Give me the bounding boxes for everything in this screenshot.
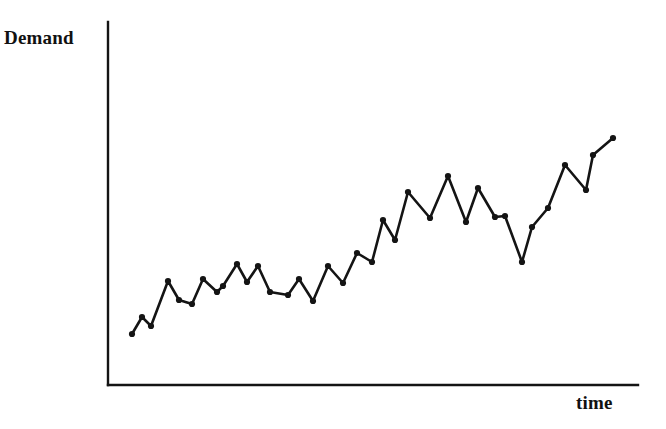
data-point <box>519 259 525 265</box>
data-point <box>148 323 154 329</box>
data-point <box>296 276 302 282</box>
axes-group <box>108 22 638 385</box>
data-point <box>139 314 145 320</box>
data-point <box>340 280 346 286</box>
data-point <box>244 279 250 285</box>
data-point <box>427 215 433 221</box>
data-point <box>392 237 398 243</box>
data-point <box>176 297 182 303</box>
chart-figure: Demand time <box>0 0 666 429</box>
x-axis-label: time <box>576 392 613 414</box>
data-point <box>255 263 261 269</box>
data-point <box>267 289 273 295</box>
data-point <box>445 173 451 179</box>
data-point <box>545 205 551 211</box>
y-axis-label: Demand <box>4 27 74 49</box>
demand-time-line-chart <box>0 0 666 429</box>
data-point <box>583 187 589 193</box>
data-point <box>189 301 195 307</box>
data-point <box>463 219 469 225</box>
data-point <box>165 278 171 284</box>
data-point <box>310 298 316 304</box>
data-point <box>285 292 291 298</box>
data-point <box>610 135 616 141</box>
data-point <box>354 250 360 256</box>
demand-series-markers <box>129 135 616 337</box>
data-point <box>220 283 226 289</box>
data-point <box>405 189 411 195</box>
data-point <box>492 214 498 220</box>
data-point <box>129 331 135 337</box>
data-point <box>369 259 375 265</box>
data-point <box>200 276 206 282</box>
data-point <box>380 217 386 223</box>
data-point <box>234 261 240 267</box>
data-point <box>214 289 220 295</box>
data-point <box>475 185 481 191</box>
data-point <box>562 162 568 168</box>
data-point <box>502 213 508 219</box>
data-point <box>325 263 331 269</box>
data-series-group <box>129 135 616 337</box>
data-point <box>529 224 535 230</box>
demand-series-line <box>132 138 613 334</box>
data-point <box>590 152 596 158</box>
